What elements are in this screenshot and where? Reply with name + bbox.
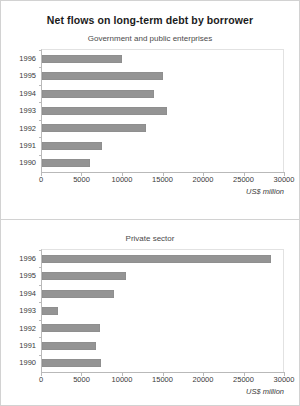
y-tick-label: 1996 [19, 55, 36, 63]
axis-caption-private: US$ million [41, 385, 284, 396]
y-axis-tick [39, 155, 42, 156]
y-axis-tick [39, 50, 42, 51]
bar [42, 359, 101, 367]
y-axis-tick [39, 285, 42, 286]
bar [42, 142, 102, 150]
x-tick-label: 5000 [73, 375, 90, 384]
panel-subtitle-government: Government and public enterprises [1, 26, 299, 43]
x-tick-label: 5000 [73, 175, 90, 184]
y-tick-label: 1995 [19, 272, 36, 280]
bar-row: 1993 [42, 102, 283, 119]
bar [42, 124, 146, 132]
bar [42, 72, 163, 80]
bar-row: 1995 [42, 67, 283, 84]
bar [42, 159, 90, 167]
bar-row: 1992 [42, 120, 283, 137]
x-tick-label: 20000 [193, 375, 214, 384]
y-axis-tick [39, 67, 42, 68]
bar [42, 307, 58, 315]
bar-row: 1996 [42, 50, 283, 67]
y-axis-tick [39, 137, 42, 138]
y-axis-tick [39, 120, 42, 121]
panel-government: Net flows on long-term debt by borrower … [1, 1, 299, 220]
y-tick-label: 1992 [19, 325, 36, 333]
bars-government: 1996199519941993199219911990 [41, 49, 284, 172]
chart-figure: Net flows on long-term debt by borrower … [0, 0, 300, 406]
y-axis-tick [39, 355, 42, 356]
chart-title: Net flows on long-term debt by borrower [1, 1, 299, 26]
bar-row: 1992 [42, 320, 283, 337]
y-tick-label: 1991 [19, 342, 36, 350]
y-axis-tick [39, 267, 42, 268]
y-tick-label: 1993 [19, 307, 36, 315]
y-tick-label: 1990 [19, 359, 36, 367]
y-axis-tick [39, 250, 42, 251]
y-axis-tick [39, 102, 42, 103]
y-tick-label: 1996 [19, 255, 36, 263]
x-tick-label: 10000 [112, 175, 133, 184]
bar [42, 342, 96, 350]
bar-row: 1994 [42, 285, 283, 302]
x-tick-label: 10000 [112, 375, 133, 384]
bar-row: 1990 [42, 155, 283, 172]
x-tick-label: 15000 [152, 375, 173, 384]
bar [42, 272, 126, 280]
panel-private: Private sector 1996199519941993199219911… [1, 220, 299, 405]
x-tick-label: 25000 [233, 375, 254, 384]
y-tick-label: 1990 [19, 159, 36, 167]
x-tick-label: 15000 [152, 175, 173, 184]
y-tick-label: 1993 [19, 107, 36, 115]
x-tick-label: 0 [39, 375, 43, 384]
y-axis-tick [39, 337, 42, 338]
y-tick-label: 1994 [19, 290, 36, 298]
y-axis-tick [39, 320, 42, 321]
x-tick-label: 20000 [193, 175, 214, 184]
y-axis-tick [39, 85, 42, 86]
y-axis-tick [39, 302, 42, 303]
x-tick-label: 30000 [274, 175, 295, 184]
bar-row: 1991 [42, 337, 283, 354]
panel-subtitle-private: Private sector [1, 220, 299, 243]
bar-row: 1994 [42, 85, 283, 102]
x-tick-labels-private: 050001000015000200002500030000 [41, 373, 284, 385]
y-tick-label: 1995 [19, 72, 36, 80]
x-tick-label: 0 [39, 175, 43, 184]
plot-area-private: 1996199519941993199219911990 05000100001… [41, 249, 284, 396]
bar [42, 55, 122, 63]
x-tick-label: 30000 [274, 375, 295, 384]
bar-row: 1990 [42, 355, 283, 372]
plot-area-government: 1996199519941993199219911990 05000100001… [41, 49, 284, 196]
axis-caption-government: US$ million [41, 185, 284, 196]
bar [42, 255, 271, 263]
bar [42, 107, 167, 115]
bar-row: 1995 [42, 267, 283, 284]
bars-private: 1996199519941993199219911990 [41, 249, 284, 372]
bar [42, 290, 114, 298]
y-tick-label: 1994 [19, 90, 36, 98]
y-tick-label: 1991 [19, 142, 36, 150]
bar-row: 1996 [42, 250, 283, 267]
y-tick-label: 1992 [19, 125, 36, 133]
bar [42, 324, 100, 332]
bar-row: 1991 [42, 137, 283, 154]
x-tick-labels-government: 050001000015000200002500030000 [41, 173, 284, 185]
x-tick-label: 25000 [233, 175, 254, 184]
bar-row: 1993 [42, 302, 283, 319]
bar [42, 90, 154, 98]
